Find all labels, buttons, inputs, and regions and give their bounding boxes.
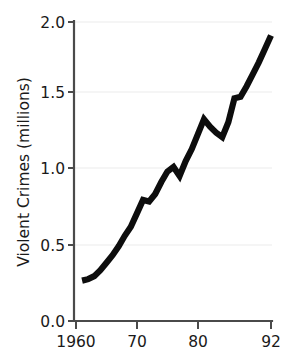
x-tick-label-92: 92 [261, 333, 281, 351]
y-tick-label-1-5: 1.5 [40, 84, 65, 102]
y-tick-label-0-0: 0.0 [40, 313, 65, 331]
x-tick-label-1960: 1960 [56, 333, 95, 351]
x-tick-label-80: 80 [188, 333, 208, 351]
y-tick-label-1-0: 1.0 [40, 160, 65, 178]
x-tick-label-70: 70 [127, 333, 147, 351]
x-tick-marks [76, 321, 271, 329]
gridlines [74, 22, 272, 245]
data-series-violent-crimes [82, 35, 271, 280]
y-tick-labels: 2.0 1.5 1.0 0.5 0.0 [40, 14, 65, 331]
chart-canvas: 2.0 1.5 1.0 0.5 0.0 1960 70 80 92 Violen… [0, 0, 289, 361]
y-axis-title: Violent Crimes (millions) [15, 77, 33, 267]
y-tick-label-2-0: 2.0 [40, 14, 65, 32]
x-tick-labels: 1960 70 80 92 [56, 333, 281, 351]
y-tick-label-0-5: 0.5 [40, 237, 65, 255]
violent-crimes-line-chart: 2.0 1.5 1.0 0.5 0.0 1960 70 80 92 Violen… [0, 0, 289, 361]
